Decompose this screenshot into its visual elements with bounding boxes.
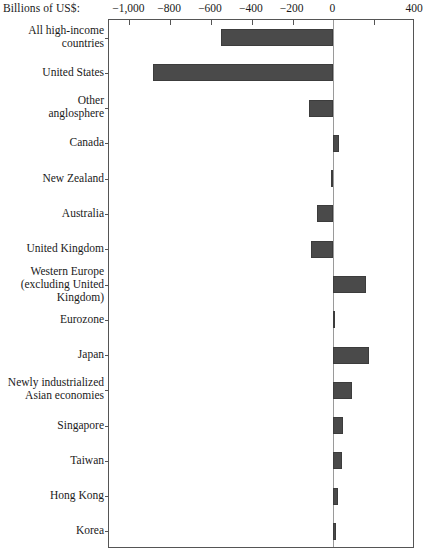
- x-tick-label: 400: [405, 2, 422, 14]
- bar: [333, 523, 336, 540]
- bar: [333, 382, 352, 399]
- x-tick-label: −200: [280, 2, 304, 14]
- y-axis-category-label: All high-income countries: [0, 24, 104, 50]
- y-tick-mark: [105, 179, 109, 180]
- bar: [221, 29, 334, 46]
- y-axis-category-label: United Kingdom: [0, 242, 104, 255]
- y-axis-category-label: Western Europe (excluding United Kingdom…: [0, 264, 104, 303]
- y-axis-category-label: Australia: [0, 206, 104, 219]
- x-tick-mark: [211, 20, 212, 25]
- bar: [333, 417, 343, 434]
- x-tick-mark: [374, 20, 375, 25]
- x-tick-label: −600: [198, 2, 222, 14]
- y-tick-mark: [105, 285, 109, 286]
- y-axis-category-label: New Zealand: [0, 171, 104, 184]
- bar: [333, 452, 341, 469]
- x-tick-mark: [129, 20, 130, 25]
- y-axis-category-label: Korea: [0, 524, 104, 537]
- y-tick-mark: [105, 531, 109, 532]
- y-tick-mark: [105, 426, 109, 427]
- y-tick-mark: [105, 461, 109, 462]
- y-axis-category-label: Japan: [0, 348, 104, 361]
- bar: [333, 276, 366, 293]
- bar: [333, 135, 339, 152]
- y-tick-mark: [105, 143, 109, 144]
- y-axis-labels: All high-income countriesUnited StatesOt…: [0, 19, 104, 548]
- x-axis-header: Billions of US$: −1,000−800−600−400−2000…: [0, 0, 423, 19]
- y-axis-category-label: Eurozone: [0, 312, 104, 325]
- plot-area: [108, 19, 414, 548]
- y-axis-category-label: Taiwan: [0, 453, 104, 466]
- x-tick-label: 0: [330, 2, 336, 14]
- bar: [311, 241, 333, 258]
- y-axis-category-label: Singapore: [0, 418, 104, 431]
- bar-chart: Billions of US$: −1,000−800−600−400−2000…: [0, 0, 423, 557]
- y-tick-mark: [105, 38, 109, 39]
- bar: [331, 170, 333, 187]
- x-tick-label: −400: [239, 2, 263, 14]
- x-tick-label: −1,000: [112, 2, 144, 14]
- x-tick-mark: [252, 20, 253, 25]
- y-tick-mark: [105, 73, 109, 74]
- bar: [333, 488, 338, 505]
- bar: [333, 347, 369, 364]
- x-tick-mark: [170, 20, 171, 25]
- bar: [333, 311, 335, 328]
- y-tick-mark: [105, 320, 109, 321]
- bar: [153, 64, 333, 81]
- y-tick-mark: [105, 355, 109, 356]
- y-tick-mark: [105, 108, 109, 109]
- x-tick-mark: [293, 20, 294, 25]
- y-tick-mark: [105, 390, 109, 391]
- y-axis-category-label: Other anglosphere: [0, 94, 104, 120]
- y-axis-category-label: United States: [0, 65, 104, 78]
- y-tick-mark: [105, 496, 109, 497]
- x-axis-unit-label: Billions of US$:: [3, 2, 80, 14]
- x-tick-label: −800: [157, 2, 181, 14]
- y-axis-category-label: Newly industrialized Asian economies: [0, 376, 104, 402]
- bar: [309, 100, 333, 117]
- bar: [317, 205, 333, 222]
- y-tick-mark: [105, 249, 109, 250]
- y-axis-category-label: Canada: [0, 136, 104, 149]
- y-axis-category-label: Hong Kong: [0, 489, 104, 502]
- y-tick-mark: [105, 214, 109, 215]
